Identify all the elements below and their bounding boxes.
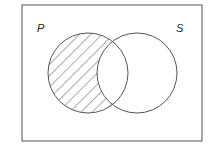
shaded-region-p-only <box>40 25 140 125</box>
set-p-label: P <box>37 22 45 34</box>
venn-diagram: P S <box>0 0 213 149</box>
set-s-label: S <box>176 22 184 34</box>
